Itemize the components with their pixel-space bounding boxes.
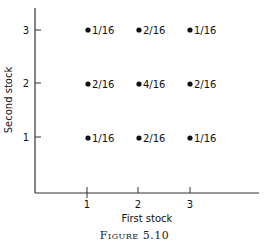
point-marker — [187, 81, 192, 86]
point-marker — [187, 27, 192, 32]
y-ticks: 3 2 1 — [23, 25, 41, 143]
x-tick-label-2: 2 — [135, 199, 141, 210]
y-tick-label-1: 1 — [23, 132, 29, 143]
point-marker — [136, 135, 141, 140]
y-axis-label: Second stock — [3, 67, 14, 134]
point-marker — [85, 135, 90, 140]
point-label: 1/16 — [92, 25, 114, 36]
x-ticks: 1 2 3 — [84, 187, 193, 210]
point-label: 2/16 — [143, 133, 165, 144]
data-points: 1/16 2/16 1/16 2/16 4/16 2/16 1/16 2/16 … — [85, 25, 216, 144]
point-label: 1/16 — [92, 133, 114, 144]
point-marker — [136, 27, 141, 32]
x-axis-label: First stock — [122, 213, 173, 224]
point-marker — [136, 81, 141, 86]
point-marker — [85, 27, 90, 32]
point-label: 1/16 — [194, 25, 216, 36]
point-label: 4/16 — [143, 79, 165, 90]
figure-caption: Figure 5.10 — [0, 229, 269, 242]
point-marker — [85, 81, 90, 86]
point-marker — [187, 135, 192, 140]
y-tick-label-2: 2 — [23, 78, 29, 89]
point-label: 2/16 — [92, 79, 114, 90]
y-tick-label-3: 3 — [23, 25, 29, 36]
point-label: 2/16 — [143, 25, 165, 36]
joint-distribution-plot: 3 2 1 1 2 3 Second stock First stock 1/1… — [0, 0, 269, 247]
point-label: 2/16 — [194, 79, 216, 90]
figure-caption-text: Figure 5.10 — [100, 229, 169, 242]
point-label: 1/16 — [194, 133, 216, 144]
x-tick-label-1: 1 — [84, 199, 90, 210]
x-tick-label-3: 3 — [187, 199, 193, 210]
